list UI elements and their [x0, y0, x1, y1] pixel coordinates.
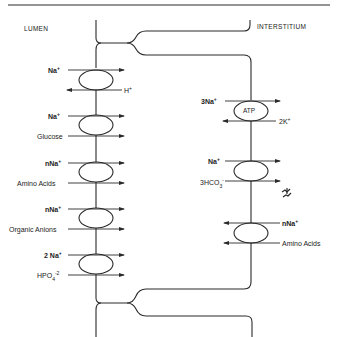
lateral-space-top-lower [127, 43, 251, 100]
label-hco3: 3HCO3- [200, 178, 224, 189]
transporter-na-organic-anion [79, 208, 113, 228]
label-glucose: Glucose [37, 133, 63, 140]
label-amino-acids-left: Amino Acids [17, 180, 56, 187]
label-na-1: Na+ [48, 66, 60, 74]
label-hpo4: HPO4-2 [37, 271, 59, 282]
transporter-na-glucose [79, 115, 113, 135]
label-nna-right: nNa+ [282, 219, 298, 227]
tight-junction-bottom-left [96, 274, 127, 303]
squiggle-glyph [282, 188, 291, 197]
lumen-label: LUMEN [24, 26, 48, 33]
label-nna-2: nNa+ [45, 205, 61, 213]
transporter-na-hco3 [234, 161, 268, 181]
transporter-na-phosphate [79, 254, 113, 274]
renal-tubule-transport-diagram: LUMEN INTERSTITIUM Na+ H+ Na+ Glucose nN… [0, 0, 337, 337]
lateral-space-top-upper [127, 20, 250, 43]
label-2k: 2K+ [279, 117, 290, 125]
transporter-na-amino-basolateral [234, 223, 268, 243]
diagram-lines [0, 0, 337, 337]
label-atp: ATP [243, 108, 255, 115]
lateral-space-bottom-upper [127, 243, 251, 303]
label-h: H+ [124, 86, 132, 94]
transporter-na-amino [79, 162, 113, 182]
label-2na: 2 Na+ [44, 251, 62, 259]
interstitium-label: INTERSTITIUM [257, 24, 306, 31]
label-amino-acids-right: Amino Acids [282, 240, 321, 247]
label-na-right: Na+ [208, 157, 220, 165]
label-organic-anions: Organic Anions [9, 226, 56, 233]
transporter-na-h [79, 70, 113, 90]
tight-junction-top-left [96, 20, 127, 43]
label-nna-1: nNa+ [45, 159, 61, 167]
label-3na: 3Na+ [201, 97, 217, 105]
label-na-2: Na+ [48, 112, 60, 120]
lateral-space-bottom-lower [127, 303, 252, 337]
